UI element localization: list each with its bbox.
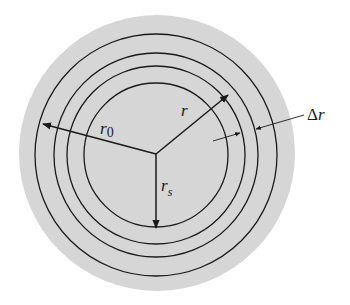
concentric-shell-diagram: r0 r rs Δr [0, 0, 350, 305]
label-r: r [181, 101, 188, 120]
label-delta-r: Δr [307, 105, 325, 124]
